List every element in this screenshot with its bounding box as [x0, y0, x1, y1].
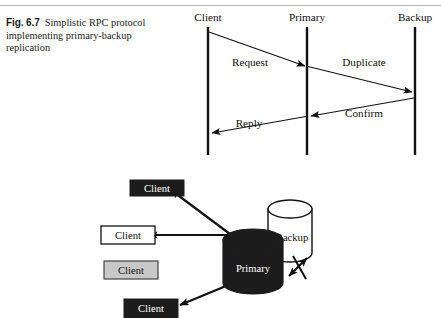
client-node-2: Client: [101, 226, 155, 244]
architecture-diagram: Backup Primary Client Client Client Clie…: [0, 0, 441, 318]
client-3-label: Client: [118, 265, 144, 276]
client-2-label: Client: [115, 230, 141, 241]
backup-cylinder-top: [268, 200, 312, 218]
primary-cylinder-top: [223, 229, 283, 251]
client-node-4: Client: [124, 299, 178, 318]
client-4-label: Client: [138, 303, 164, 314]
client-node-1: Client: [130, 180, 184, 196]
client-node-3: Client: [104, 261, 158, 279]
client-1-label: Client: [144, 183, 170, 194]
server-node-primary: Primary: [223, 229, 283, 294]
primary-label: Primary: [236, 263, 271, 274]
